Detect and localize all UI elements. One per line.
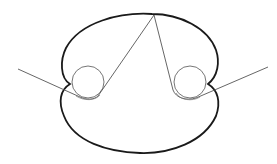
left-circle: [72, 66, 104, 98]
right-circle: [174, 66, 206, 98]
outer-curve: [61, 14, 219, 153]
diagram-canvas: [0, 0, 277, 164]
